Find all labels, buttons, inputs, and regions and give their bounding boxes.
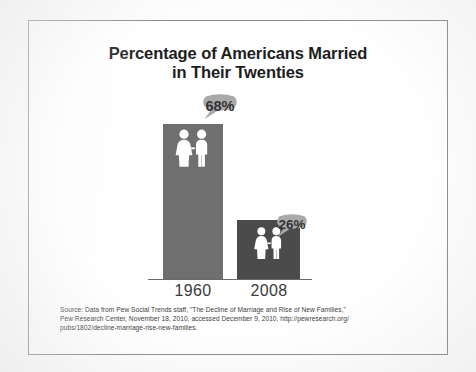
source-line-1: Source: Data from Pew Social Trends staf… (60, 305, 420, 314)
x-axis-label-2008: 2008 (226, 282, 312, 300)
speech-bubble-1960: 68% (191, 93, 249, 120)
bars-container (28, 124, 448, 279)
bubble-label-1960: 68% (191, 98, 249, 114)
bubble-label-2008: 26% (266, 217, 318, 232)
couple-pictogram-icon (172, 128, 214, 168)
speech-bubble-2008: 26% (266, 213, 318, 238)
x-axis-label-1960: 1960 (150, 282, 236, 300)
chart-plot-area: 68% 26% 1960 2008 Source: Data from Pew … (28, 20, 448, 355)
source-line-2: Pew Research Center, November 18, 2010, … (60, 314, 420, 323)
infographic-figure: Percentage of Americans Married in Their… (0, 0, 476, 372)
source-line-3: pubs/1802/decline-marriage-rise-new-fami… (60, 323, 420, 332)
source-note: Source: Data from Pew Social Trends staf… (60, 305, 420, 332)
chart-baseline (148, 279, 312, 280)
